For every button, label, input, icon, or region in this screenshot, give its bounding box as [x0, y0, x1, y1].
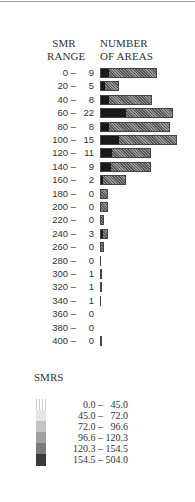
- bar-hatched-segment: [101, 190, 107, 198]
- smr-range-label: 300 –: [38, 267, 76, 280]
- bar: [100, 175, 126, 185]
- bar-dark-segment: [101, 149, 112, 157]
- bar: [100, 135, 177, 145]
- bar-dark-segment: [101, 109, 126, 117]
- area-count: 22: [80, 106, 94, 119]
- area-count: 0: [80, 254, 94, 267]
- smr-range-header: SMR RANGE: [47, 37, 81, 63]
- table-row: 180 –0: [0, 187, 195, 200]
- bar-hatched-segment: [112, 149, 150, 157]
- table-row: 300 –1: [0, 267, 195, 280]
- table-row: 400 –0: [0, 334, 195, 347]
- smr-range-label: 100 –: [38, 133, 76, 146]
- table-row: 40 –8: [0, 93, 195, 106]
- table-row: 320 –1: [0, 280, 195, 293]
- area-count: 3: [80, 227, 94, 240]
- area-count: 9: [80, 160, 94, 173]
- bar-hatched-segment: [126, 109, 172, 117]
- bar: [100, 189, 108, 199]
- smr-range-label: 400 –: [38, 334, 76, 347]
- bar-hatched-segment: [109, 123, 169, 131]
- table-row: 200 –0: [0, 200, 195, 213]
- bar: [100, 122, 170, 132]
- smr-range-label: 380 –: [38, 321, 76, 334]
- area-count: 0: [80, 321, 94, 334]
- table-row: 20 –5: [0, 79, 195, 92]
- area-count: 8: [80, 120, 94, 133]
- area-count: 0: [80, 334, 94, 347]
- bar: [100, 282, 102, 292]
- smr-range-label: 340 –: [38, 294, 76, 307]
- area-count: 1: [80, 294, 94, 307]
- area-count: 11: [80, 146, 94, 159]
- bar: [100, 108, 173, 118]
- legend-label: 96.6 – 120.3: [60, 432, 128, 443]
- bar-hatched-segment: [101, 243, 103, 251]
- area-count: 0: [80, 240, 94, 253]
- table-row: 160 –2: [0, 173, 195, 186]
- area-count: 0: [80, 187, 94, 200]
- header-line: NUMBER: [100, 37, 153, 50]
- bar-hatched-segment: [101, 203, 107, 211]
- legend-swatch: [36, 454, 46, 466]
- legend-title: SMRS: [34, 371, 63, 383]
- legend-swatch: [36, 410, 46, 421]
- smr-range-label: 60 –: [38, 106, 76, 119]
- table-row: 340 –1: [0, 294, 195, 307]
- smr-range-label: 220 –: [38, 213, 76, 226]
- header-line: SMR: [47, 37, 81, 50]
- bar: [100, 242, 104, 252]
- legend-label: 72.0 – 96.6: [60, 421, 128, 432]
- top-rule: [0, 1, 195, 2]
- smr-range-label: 140 –: [38, 160, 76, 173]
- bar-hatched-segment: [101, 216, 103, 224]
- area-count: 0: [80, 307, 94, 320]
- legend-label: 45.0 – 72.0: [60, 410, 128, 421]
- table-row: 60 –22: [0, 106, 195, 119]
- bar-hatched-segment: [105, 82, 118, 90]
- area-count: 1: [80, 280, 94, 293]
- area-count: 9: [80, 66, 94, 79]
- smr-range-label: 160 –: [38, 173, 76, 186]
- smr-range-label: 80 –: [38, 120, 76, 133]
- bar: [100, 148, 151, 158]
- table-row: 0 –9: [0, 66, 195, 79]
- bar-dark-segment: [101, 163, 111, 171]
- legend-swatch: [36, 421, 46, 432]
- legend-label: 154.5 – 504.0: [60, 454, 128, 465]
- smr-range-label: 260 –: [38, 240, 76, 253]
- table-row: 140 –9: [0, 160, 195, 173]
- bar-hatched-segment: [103, 176, 125, 184]
- area-count: 8: [80, 93, 94, 106]
- number-of-areas-header: NUMBER OF AREAS: [100, 37, 153, 63]
- smr-range-label: 200 –: [38, 200, 76, 213]
- table-row: 260 –0: [0, 240, 195, 253]
- legend-label: 120.3 – 154.5: [60, 443, 128, 454]
- header-line: OF AREAS: [100, 50, 153, 63]
- bar: [100, 269, 102, 279]
- bar: [100, 95, 152, 105]
- bar: [100, 81, 119, 91]
- table-row: 120 –11: [0, 146, 195, 159]
- legend-swatch: [36, 432, 46, 443]
- smr-range-label: 240 –: [38, 227, 76, 240]
- area-count: 5: [80, 79, 94, 92]
- bar-hatched-segment: [119, 136, 176, 144]
- table-row: 360 –0: [0, 307, 195, 320]
- bar-dark-segment: [101, 69, 109, 77]
- table-row: 100 –15: [0, 133, 195, 146]
- smr-range-label: 320 –: [38, 280, 76, 293]
- area-count: 1: [80, 267, 94, 280]
- smr-range-label: 0 –: [38, 66, 76, 79]
- smr-range-label: 40 –: [38, 93, 76, 106]
- bar: [100, 296, 101, 306]
- area-count: 15: [80, 133, 94, 146]
- bar-hatched-segment: [111, 163, 150, 171]
- smr-range-label: 120 –: [38, 146, 76, 159]
- area-count: 2: [80, 173, 94, 186]
- bar: [100, 256, 101, 266]
- bar-dark-segment: [101, 123, 109, 131]
- legend-label: 0.0 – 45.0: [60, 399, 128, 410]
- bar: [100, 336, 102, 346]
- bar: [100, 202, 108, 212]
